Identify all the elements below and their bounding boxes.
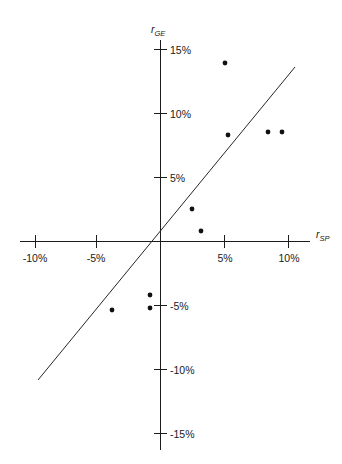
plot-canvas: -10% -5% 5% 10% 15% 10% 5% -5% -10% -15%…: [0, 0, 342, 464]
y-tick-label-neg5: -5%: [170, 300, 189, 312]
x-axis-title: rSP: [316, 228, 330, 243]
data-point: [110, 308, 115, 313]
data-point: [280, 130, 285, 135]
x-axis-title-subscript: SP: [320, 234, 330, 243]
data-point: [190, 207, 195, 212]
y-tick-label-neg15: -15%: [170, 428, 195, 440]
y-axis-title-subscript: GE: [155, 29, 167, 38]
x-tick-label-pos5: 5%: [217, 252, 232, 264]
data-point: [148, 293, 153, 298]
y-tick-label-pos10: 10%: [170, 108, 191, 120]
x-tick-label-neg5: -5%: [87, 252, 106, 264]
y-tick-label-neg10: -10%: [170, 364, 195, 376]
y-tick-label-pos15: 15%: [170, 44, 191, 56]
data-point: [199, 229, 204, 234]
data-point: [223, 61, 228, 66]
y-axis-title: rGE: [151, 23, 166, 38]
x-tick-label-pos10: 10%: [278, 252, 299, 264]
y-tick-label-pos5: 5%: [170, 172, 185, 184]
data-point: [266, 130, 271, 135]
data-point: [148, 306, 153, 311]
data-point: [226, 133, 231, 138]
x-tick-label-neg10: -10%: [23, 252, 48, 264]
scatter-plot-figure: -10% -5% 5% 10% 15% 10% 5% -5% -10% -15%…: [0, 0, 342, 464]
x-tick-labels: -10% -5% 5% 10%: [23, 252, 300, 264]
